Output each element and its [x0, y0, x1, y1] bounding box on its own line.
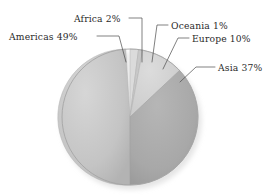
pie-slices-group: [58, 49, 198, 185]
pie-label-oceania: Oceania 1%: [171, 21, 228, 30]
pie-label-americas: Americas 49%: [9, 32, 78, 41]
pie-label-europe: Europe 10%: [192, 34, 251, 43]
pie-label-africa: Africa 2%: [74, 14, 121, 23]
pie-chart-figure: Americas 49% Africa 2% Oceania 1% Europe…: [0, 0, 275, 195]
pie-slice-americas: [58, 49, 130, 185]
pie-chart-canvas: [0, 0, 275, 195]
pie-label-asia: Asia 37%: [218, 63, 262, 72]
